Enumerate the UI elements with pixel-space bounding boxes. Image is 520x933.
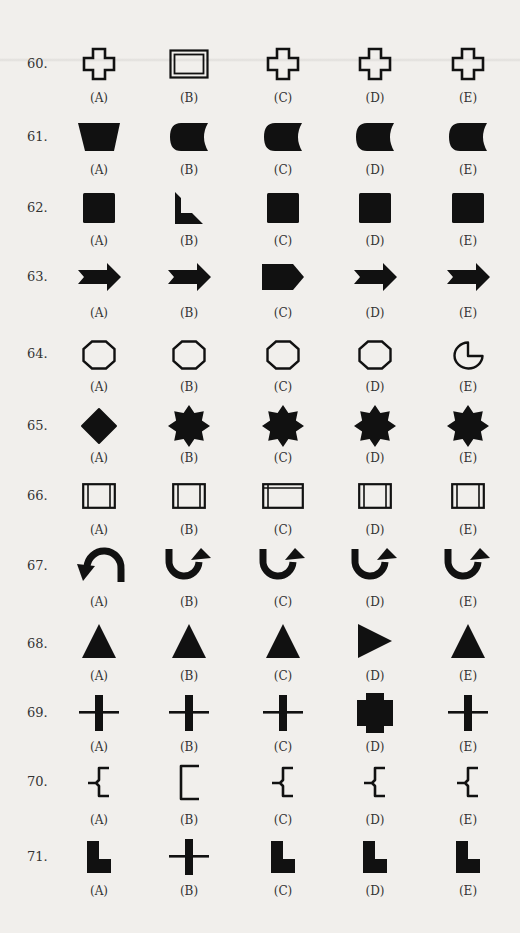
square-double-sides-icon	[64, 483, 134, 513]
filled-square-icon	[64, 193, 134, 227]
thin-cross-thick-vertical-icon	[64, 695, 134, 735]
option-label: (E)	[433, 163, 503, 177]
outline-cross-icon	[340, 47, 410, 85]
option-label: (C)	[248, 884, 318, 898]
option-label: (E)	[433, 813, 503, 827]
question-number: 71.	[27, 849, 48, 864]
option-label: (B)	[154, 884, 224, 898]
option-label: (B)	[154, 451, 224, 465]
option-label: (C)	[248, 813, 318, 827]
option-label: (C)	[248, 595, 318, 609]
option-label: (B)	[154, 669, 224, 683]
option-label: (E)	[433, 884, 503, 898]
option-label: (D)	[340, 91, 410, 105]
question-number: 66.	[27, 488, 48, 503]
option-label: (A)	[64, 163, 134, 177]
option-label: (B)	[154, 306, 224, 320]
option-label: (A)	[64, 813, 134, 827]
option-label: (B)	[154, 163, 224, 177]
outline-octagon-icon	[248, 340, 318, 374]
option-label: (D)	[340, 451, 410, 465]
filled-l-bevel-icon	[154, 191, 224, 229]
option-label: (C)	[248, 163, 318, 177]
option-label: (D)	[340, 380, 410, 394]
option-label: (A)	[64, 595, 134, 609]
outline-cross-icon	[248, 47, 318, 85]
option-label: (B)	[154, 91, 224, 105]
filled-notched-arrow-right-icon	[64, 262, 134, 296]
outline-cross-icon	[64, 47, 134, 85]
filled-triangle-right-icon	[340, 623, 410, 663]
arch-arrow-left-down-icon	[64, 549, 134, 587]
filled-8-point-star-icon	[154, 405, 224, 451]
option-label: (E)	[433, 91, 503, 105]
option-label: (E)	[433, 669, 503, 683]
brace-left-icon	[64, 766, 134, 802]
question-number: 69.	[27, 705, 48, 720]
filled-diamond-icon	[64, 408, 134, 448]
thin-cross-thick-vertical-icon	[154, 839, 224, 879]
option-label: (A)	[64, 884, 134, 898]
option-label: (C)	[248, 380, 318, 394]
option-label: (E)	[433, 380, 503, 394]
option-label: (D)	[340, 669, 410, 683]
filled-d-shape-concave-right-icon	[433, 122, 503, 156]
filled-triangle-up-icon	[433, 623, 503, 663]
option-label: (A)	[64, 669, 134, 683]
outline-octagon-icon	[154, 340, 224, 374]
outline-octagon-icon	[340, 340, 410, 374]
brace-left-icon	[340, 766, 410, 802]
u-arrow-right-up-icon	[248, 548, 318, 588]
question-number: 67.	[27, 558, 48, 573]
filled-notched-arrow-right-icon	[154, 262, 224, 296]
option-label: (D)	[340, 523, 410, 537]
option-label: (E)	[433, 234, 503, 248]
filled-square-icon	[248, 193, 318, 227]
filled-trapezoid-icon	[64, 122, 134, 156]
option-label: (D)	[340, 163, 410, 177]
filled-triangle-up-icon	[64, 623, 134, 663]
option-label: (E)	[433, 740, 503, 754]
filled-d-shape-concave-right-icon	[248, 122, 318, 156]
option-label: (D)	[340, 234, 410, 248]
option-label: (C)	[248, 306, 318, 320]
thin-cross-thick-vertical-icon	[248, 695, 318, 735]
double-outline-rectangle-icon	[154, 49, 224, 83]
filled-d-shape-concave-right-icon	[340, 122, 410, 156]
u-arrow-right-up-icon	[433, 548, 503, 588]
option-label: (B)	[154, 740, 224, 754]
question-number: 65.	[27, 418, 48, 433]
question-number: 63.	[27, 269, 48, 284]
option-label: (A)	[64, 451, 134, 465]
option-label: (E)	[433, 523, 503, 537]
filled-triangle-up-icon	[248, 623, 318, 663]
question-number: 64.	[27, 346, 48, 361]
square-double-sides-icon	[433, 483, 503, 513]
square-double-sides-icon	[340, 483, 410, 513]
option-label: (D)	[340, 813, 410, 827]
option-label: (C)	[248, 234, 318, 248]
option-label: (A)	[64, 380, 134, 394]
option-label: (C)	[248, 523, 318, 537]
question-number: 68.	[27, 636, 48, 651]
filled-8-point-star-icon	[340, 405, 410, 451]
filled-notched-arrow-right-icon	[433, 262, 503, 296]
option-label: (C)	[248, 740, 318, 754]
filled-blocky-cross-icon	[340, 693, 410, 737]
filled-8-point-star-icon	[248, 405, 318, 451]
option-label: (B)	[154, 380, 224, 394]
option-label: (A)	[64, 234, 134, 248]
option-label: (A)	[64, 523, 134, 537]
bracket-open-right-icon	[154, 763, 224, 805]
option-label: (A)	[64, 306, 134, 320]
filled-l-block-icon	[433, 841, 503, 877]
option-label: (B)	[154, 813, 224, 827]
filled-triangle-up-icon	[154, 623, 224, 663]
filled-square-icon	[340, 193, 410, 227]
option-label: (D)	[340, 740, 410, 754]
option-label: (A)	[64, 740, 134, 754]
option-label: (B)	[154, 595, 224, 609]
u-arrow-right-up-icon	[154, 548, 224, 588]
option-label: (D)	[340, 595, 410, 609]
filled-l-block-icon	[248, 841, 318, 877]
